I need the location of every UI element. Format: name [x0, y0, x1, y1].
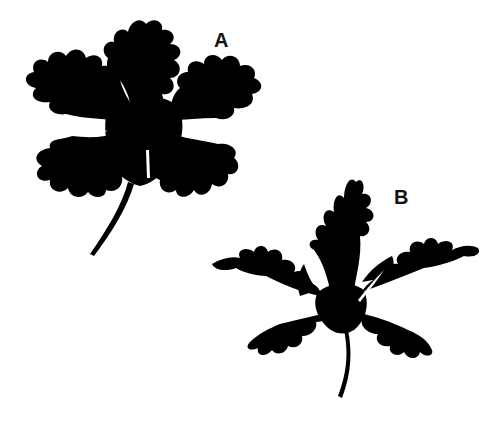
- leaf-comparison-figure: A B: [0, 0, 497, 424]
- panel-label-b: B: [394, 187, 408, 207]
- leaf-b-silhouette: [0, 0, 497, 424]
- panel-label-a: A: [214, 30, 228, 50]
